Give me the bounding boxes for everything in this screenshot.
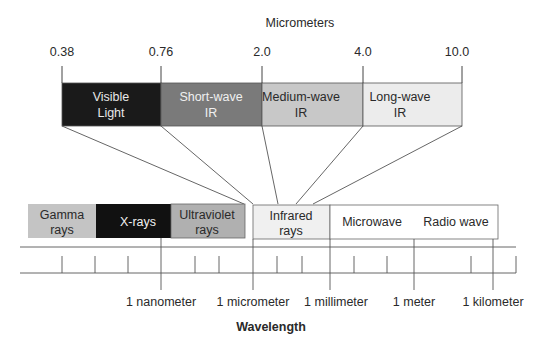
label-1-meter: 1 meter	[393, 295, 435, 309]
label-1-micrometer: 1 micrometer	[217, 295, 290, 309]
gamma-line2: rays	[50, 223, 74, 237]
infrared-line2: rays	[279, 224, 303, 238]
electromagnetic-spectrum-diagram: Micrometers 0.38 0.76 2.0 4.0 10.0 Visib…	[0, 0, 543, 354]
ultraviolet-line1: Ultraviolet	[179, 208, 235, 222]
label-1-millimeter: 1 millimeter	[304, 295, 368, 309]
tick-label-0.76: 0.76	[149, 45, 173, 59]
connector-lines	[62, 126, 462, 204]
tick-label-4.0: 4.0	[354, 45, 371, 59]
wavelength-labels: 1 nanometer 1 micrometer 1 millimeter 1 …	[126, 295, 524, 309]
tick-label-10.0: 10.0	[445, 45, 469, 59]
ultraviolet-line2: rays	[195, 223, 219, 237]
top-tick-lines	[62, 66, 462, 83]
radio-wave-label: Radio wave	[423, 215, 488, 229]
top-tick-labels: 0.38 0.76 2.0 4.0 10.0	[50, 45, 469, 59]
long-wave-ir-line2: IR	[394, 106, 407, 120]
tick-label-2.0: 2.0	[253, 45, 270, 59]
x-rays-label: X-rays	[120, 215, 156, 229]
microwave-label: Microwave	[342, 215, 402, 229]
label-1-kilometer: 1 kilometer	[462, 295, 523, 309]
medium-wave-ir-line2: IR	[295, 106, 308, 120]
short-wave-ir-line1: Short-wave	[179, 90, 242, 104]
tick-label-0.38: 0.38	[50, 45, 74, 59]
gamma-line1: Gamma	[40, 208, 85, 222]
infrared-line1: Infrared	[269, 209, 312, 223]
long-wave-ir-line1: Long-wave	[369, 90, 430, 104]
label-1-nanometer: 1 nanometer	[126, 295, 196, 309]
medium-wave-ir-line1: Medium-wave	[262, 90, 340, 104]
visible-light-line1: Visible	[93, 90, 130, 104]
micrometers-title: Micrometers	[266, 16, 335, 30]
visible-light-line2: Light	[97, 106, 125, 120]
wavelength-scale	[20, 238, 516, 290]
wavelength-axis-title: Wavelength	[236, 320, 306, 334]
short-wave-ir-line2: IR	[205, 106, 218, 120]
